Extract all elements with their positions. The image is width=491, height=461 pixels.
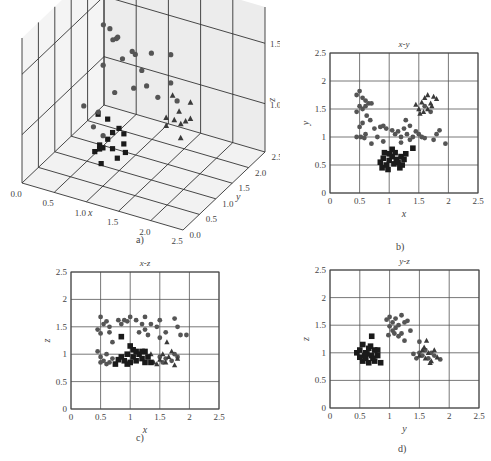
square-marker [121, 141, 126, 146]
circle-marker [146, 333, 151, 338]
chart-title: x-z [139, 258, 151, 268]
circle-marker [107, 330, 112, 335]
circle-marker [143, 327, 148, 332]
circle-marker [155, 95, 160, 100]
y-tick-label: 0.5 [315, 375, 327, 385]
square-marker [357, 347, 363, 353]
circle-marker [115, 35, 120, 40]
circle-marker [104, 352, 109, 357]
circle-marker [399, 135, 404, 140]
y-tick-label: 0 [63, 404, 68, 414]
y-tick-label: 1 [322, 348, 327, 358]
circle-marker [125, 319, 130, 324]
circle-marker [437, 128, 442, 133]
square-marker [378, 360, 384, 366]
square-marker [105, 137, 110, 142]
y-tick-label: 2 [322, 76, 327, 86]
y-tick-label: 0.5 [56, 377, 68, 387]
square-marker [380, 155, 386, 161]
circle-marker [140, 322, 145, 327]
square-marker [119, 334, 125, 340]
square-marker [105, 117, 110, 122]
x-tick-label: 1.5 [154, 412, 166, 422]
y-tick-label: 2 [63, 294, 68, 304]
circle-marker [154, 324, 159, 329]
circle-marker [98, 360, 103, 365]
data-points [354, 313, 443, 366]
plot-frame [71, 272, 219, 409]
square-marker [375, 353, 381, 359]
circle-marker [399, 140, 404, 145]
circle-marker [134, 318, 139, 323]
circle-marker [390, 320, 395, 325]
square-marker [133, 358, 139, 364]
square-marker [99, 161, 104, 166]
circle-marker [157, 335, 162, 340]
circle-marker [168, 80, 173, 85]
square-marker [130, 347, 136, 353]
circle-marker [408, 123, 413, 128]
triangle-marker [172, 362, 177, 367]
circle-marker [422, 136, 427, 141]
circle-marker [116, 318, 121, 323]
circle-marker [387, 324, 392, 329]
grid [330, 53, 478, 193]
circle-marker [369, 141, 374, 146]
square-marker [142, 360, 148, 366]
circle-marker [110, 340, 115, 345]
circle-marker [431, 137, 436, 142]
triangle-marker [419, 99, 424, 104]
circle-marker [363, 104, 368, 109]
y-tick-label: 2.5 [315, 48, 327, 58]
circle-marker [95, 327, 100, 332]
chart-xy: x-y00.511.522.500.511.522.5xy [300, 30, 491, 235]
x-tick-label: 0 [328, 196, 333, 206]
z-axis-label: z [268, 97, 279, 102]
circle-marker [354, 109, 359, 114]
square-marker [369, 333, 375, 339]
circle-marker [384, 126, 389, 131]
y-tick-label: 1 [63, 349, 68, 359]
x-tick-label: 1.5 [413, 196, 425, 206]
y-axis-label: y [235, 191, 241, 202]
chart-title: y-z [398, 256, 410, 266]
square-marker [362, 353, 368, 359]
x-tick-label: 0.5 [354, 411, 366, 421]
circle-marker [403, 118, 408, 123]
circle-marker [163, 330, 168, 335]
circle-marker [172, 316, 177, 321]
square-marker [121, 131, 126, 136]
circle-marker [96, 109, 101, 114]
y-tick-label: 2.5 [271, 152, 280, 162]
triangle-marker [421, 109, 426, 114]
triangle-marker [413, 102, 418, 107]
circle-marker [417, 339, 422, 344]
square-marker [368, 343, 374, 349]
triangle-marker [422, 344, 427, 349]
square-marker [123, 150, 128, 155]
y-tick-label: 1.5 [315, 320, 327, 330]
circle-marker [149, 51, 154, 56]
y-axis-label: z [300, 337, 311, 342]
square-marker [110, 146, 115, 151]
circle-marker [178, 333, 183, 338]
circle-marker [175, 324, 180, 329]
circle-marker [354, 135, 359, 140]
circle-marker [112, 90, 117, 95]
circle-marker [104, 362, 109, 367]
triangle-marker [164, 339, 169, 344]
square-marker [399, 162, 405, 168]
x-tick-label: 0.5 [43, 198, 55, 208]
circle-marker [399, 313, 404, 318]
circle-marker [133, 52, 138, 57]
square-marker [148, 360, 154, 366]
x-tick-label: 1.0 [75, 208, 87, 218]
circle-marker [368, 118, 373, 123]
triangle-marker [169, 349, 174, 354]
circle-marker [157, 318, 162, 323]
y-tick-label: 0.5 [206, 214, 218, 224]
square-marker [100, 145, 105, 150]
circle-marker [119, 322, 124, 327]
triangle-marker [424, 338, 429, 343]
x-tick-label: 1.5 [414, 411, 426, 421]
